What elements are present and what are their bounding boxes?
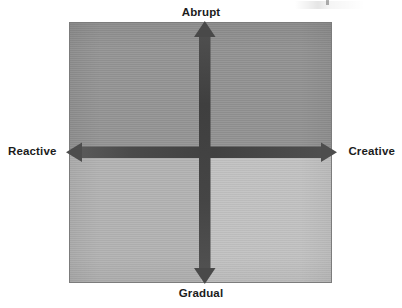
quadrant-bottom-right xyxy=(201,153,332,283)
quadrant-top-left xyxy=(70,23,201,153)
quadrant-top-right xyxy=(201,23,332,153)
axis-label-reactive: Reactive xyxy=(8,145,57,157)
axis-label-gradual: Gradual xyxy=(0,287,402,299)
matrix-box xyxy=(69,22,332,283)
axis-label-abrupt: Abrupt xyxy=(0,6,402,18)
quadrant-diagram: Abrupt Gradual Reactive Creative xyxy=(0,0,402,308)
axis-label-creative: Creative xyxy=(348,145,395,157)
scan-artifact-mark xyxy=(326,0,329,5)
quadrant-bottom-left xyxy=(70,153,201,283)
